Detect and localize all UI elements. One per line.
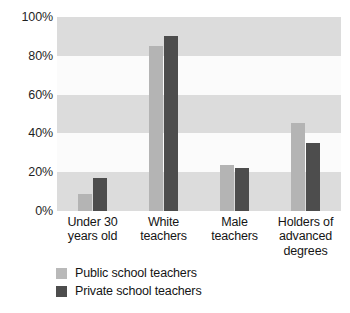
y-axis-tick-label: 20% <box>0 166 53 178</box>
legend-swatch-icon <box>56 268 67 279</box>
category-label-line: degrees <box>264 244 347 258</box>
category-label-line: advanced <box>264 229 347 243</box>
bar-public <box>220 165 234 211</box>
bar-public <box>78 194 92 211</box>
bar-private <box>235 168 249 211</box>
bar-private <box>164 36 178 211</box>
y-axis-tick-label: 40% <box>0 127 53 139</box>
legend-item: Private school teachers <box>56 283 286 299</box>
category-label-line: Holders of <box>264 215 347 229</box>
bar-chart: 100%80%60%40%20%0% Under 30years oldWhit… <box>0 0 350 313</box>
legend-label: Private school teachers <box>75 284 201 298</box>
bar-public <box>291 123 305 211</box>
bar-private <box>93 178 107 211</box>
bar-private <box>306 143 320 211</box>
legend-label: Public school teachers <box>75 266 197 280</box>
x-axis-category-label: Holders ofadvanceddegrees <box>264 215 347 258</box>
bar-public <box>149 46 163 211</box>
legend-swatch-icon <box>56 286 67 297</box>
legend-item: Public school teachers <box>56 265 286 281</box>
y-axis-tick-label: 0% <box>0 205 53 217</box>
chart-legend: Public school teachersPrivate school tea… <box>56 265 286 301</box>
y-axis-tick-label: 80% <box>0 50 53 62</box>
y-axis: 100%80%60%40%20%0% <box>0 0 53 213</box>
bars-layer <box>57 17 341 211</box>
plot-area <box>57 17 341 211</box>
y-axis-tick-label: 100% <box>0 11 53 23</box>
y-axis-tick-label: 60% <box>0 89 53 101</box>
x-axis-category-labels: Under 30years oldWhiteteachersMaleteache… <box>57 215 341 263</box>
